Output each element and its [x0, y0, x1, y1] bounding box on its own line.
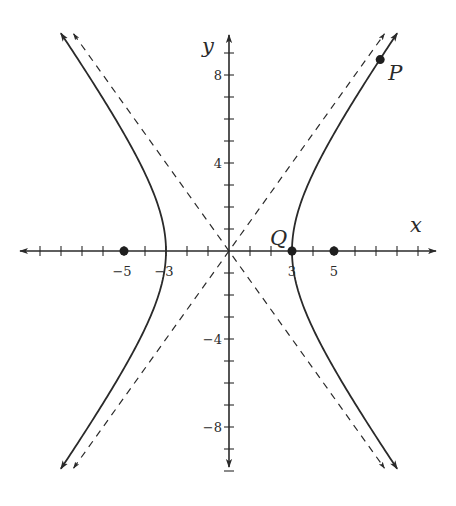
point-P-label: P — [387, 61, 403, 85]
x-tick-label: 3 — [288, 264, 296, 279]
y-tick-label: −4 — [203, 332, 222, 347]
points: QP — [120, 55, 404, 255]
y-tick-label: 8 — [214, 68, 222, 83]
y-tick-label: −8 — [203, 420, 222, 435]
labels: x y −5−335 84−4−8 — [112, 34, 422, 435]
hyperbola-diagram: QP x y −5−335 84−4−8 — [0, 0, 456, 506]
focus-left-dot — [120, 247, 129, 256]
x-tick-labels: −5−335 — [112, 264, 338, 279]
x-axis-label: x — [410, 213, 422, 237]
y-axis-label: y — [201, 34, 215, 58]
x-tick-label: −5 — [112, 264, 131, 279]
x-tick-label: 5 — [330, 264, 338, 279]
point-P-dot — [376, 55, 385, 64]
vertex-Q-dot — [288, 247, 297, 256]
x-tick-label: −3 — [154, 264, 173, 279]
y-tick-label: 4 — [214, 156, 222, 171]
focus-right-dot — [330, 247, 339, 256]
vertex-Q-label: Q — [270, 226, 287, 250]
